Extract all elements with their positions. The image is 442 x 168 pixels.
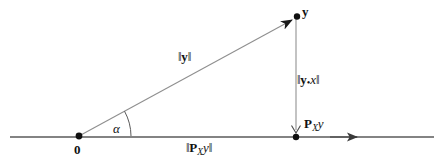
label-norm-pxy: ‖PXy‖ [186, 141, 212, 157]
projection-point [293, 134, 299, 140]
pxy-y: y [318, 116, 324, 131]
projection-diagram: y ‖y‖ ‖y•x‖ PXy ‖PXy‖ α 0 [0, 0, 442, 168]
pxy-P: P [304, 116, 312, 131]
label-y-vector-text: y [302, 4, 309, 19]
label-alpha-text: α [113, 121, 120, 136]
label-angle-alpha: α [113, 122, 120, 135]
label-norm-y-dot-x: ‖y•x‖ [297, 73, 319, 88]
norm-pxy-P: P [189, 140, 197, 155]
angle-arc [125, 111, 132, 136]
origin-point [76, 133, 83, 140]
diagram-canvas [0, 0, 442, 168]
label-norm-y: ‖y‖ [178, 50, 191, 63]
label-origin-text: 0 [74, 142, 81, 157]
label-y-vector: y [302, 5, 309, 18]
y-vector-line [79, 20, 292, 136]
label-projection-pxy: PXy [304, 117, 324, 133]
label-origin: 0 [74, 143, 81, 156]
norm-close-bar: ‖ [188, 49, 191, 64]
norm-close-bar: ‖ [316, 72, 319, 87]
norm-close-bar: ‖ [209, 140, 212, 155]
y-tip-point [294, 13, 300, 19]
